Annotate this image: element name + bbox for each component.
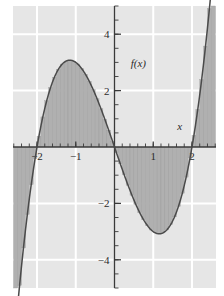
riemann-rectangle — [176, 147, 180, 206]
riemann-rectangle — [64, 61, 68, 147]
riemann-rectangle — [157, 147, 161, 234]
riemann-rectangle — [91, 90, 95, 147]
y-axis-tick-label: −4 — [98, 254, 110, 266]
y-axis-title: f(x) — [131, 57, 147, 70]
riemann-rectangle — [14, 147, 18, 288]
riemann-rectangle — [173, 147, 177, 217]
y-axis-tick-label: 2 — [104, 85, 110, 97]
riemann-rectangle — [84, 74, 88, 147]
y-axis-tick-label: 4 — [104, 28, 110, 40]
riemann-rectangle — [72, 61, 76, 147]
riemann-rectangle — [49, 88, 53, 147]
x-axis-tick-label: −2 — [31, 150, 43, 162]
riemann-rectangle — [80, 68, 84, 147]
riemann-rectangle — [56, 69, 60, 147]
riemann-rectangle — [87, 81, 91, 147]
y-axis-tick-label: −2 — [98, 197, 110, 209]
riemann-rectangle — [211, 6, 215, 147]
riemann-rectangle — [138, 147, 142, 213]
x-axis-title: x — [176, 120, 182, 132]
riemann-rectangle — [60, 64, 64, 147]
riemann-rectangle — [165, 147, 169, 230]
riemann-rectangle — [142, 147, 146, 220]
riemann-rectangle — [145, 147, 149, 226]
x-axis-tick-label: 1 — [150, 150, 156, 162]
riemann-rectangle — [169, 147, 173, 225]
riemann-rectangle — [53, 77, 57, 147]
riemann-rectangle — [76, 64, 80, 147]
riemann-rectangle — [134, 147, 138, 204]
function-plot-figure: −2−112−4−224f(x)x — [0, 0, 224, 296]
riemann-rectangle — [130, 147, 134, 195]
riemann-rectangle — [68, 60, 72, 147]
x-axis-tick-label: −1 — [70, 150, 82, 162]
plot-canvas: −2−112−4−224f(x)x — [0, 0, 224, 296]
riemann-rectangle — [95, 99, 99, 147]
riemann-rectangle — [161, 147, 165, 233]
